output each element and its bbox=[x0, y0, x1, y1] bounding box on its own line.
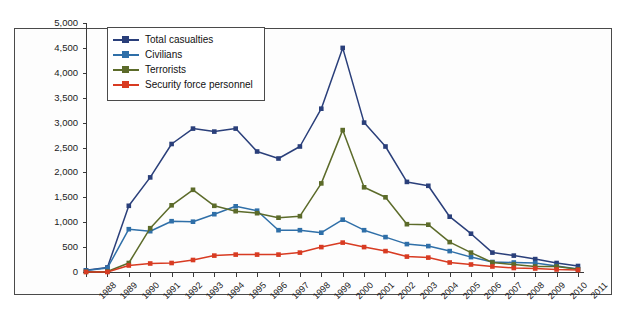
data-point-marker bbox=[127, 263, 132, 268]
data-point-marker bbox=[298, 214, 303, 219]
legend-marker-icon bbox=[113, 65, 139, 75]
data-point-marker bbox=[276, 156, 281, 161]
data-point-marker bbox=[554, 267, 559, 272]
data-point-marker bbox=[340, 128, 345, 133]
data-point-marker bbox=[447, 249, 452, 254]
data-point-marker bbox=[576, 268, 581, 273]
data-point-marker bbox=[447, 214, 452, 219]
series-line bbox=[86, 206, 578, 270]
legend-label: Total casualties bbox=[145, 34, 213, 45]
data-point-marker bbox=[191, 258, 196, 263]
data-point-marker bbox=[426, 244, 431, 249]
data-point-marker bbox=[426, 255, 431, 260]
data-point-marker bbox=[362, 228, 367, 233]
data-point-marker bbox=[298, 228, 303, 233]
chart-legend: Total casualtiesCiviliansTerroristsSecur… bbox=[107, 27, 265, 101]
data-point-marker bbox=[148, 226, 153, 231]
data-point-marker bbox=[447, 260, 452, 265]
data-point-marker bbox=[298, 144, 303, 149]
data-point-marker bbox=[212, 253, 217, 258]
data-point-marker bbox=[340, 46, 345, 51]
data-point-marker bbox=[233, 126, 238, 131]
data-point-marker bbox=[169, 219, 174, 224]
data-point-marker bbox=[255, 211, 260, 216]
data-point-marker bbox=[340, 217, 345, 222]
data-point-marker bbox=[340, 240, 345, 245]
series-line bbox=[86, 130, 578, 272]
data-point-marker bbox=[405, 180, 410, 185]
data-point-marker bbox=[191, 188, 196, 193]
data-point-marker bbox=[276, 228, 281, 233]
series-civilians bbox=[84, 204, 581, 273]
data-point-marker bbox=[233, 209, 238, 214]
data-point-marker bbox=[169, 261, 174, 266]
data-point-marker bbox=[383, 249, 388, 254]
data-point-marker bbox=[490, 260, 495, 265]
legend-label: Civilians bbox=[145, 49, 182, 60]
data-point-marker bbox=[405, 254, 410, 259]
data-point-marker bbox=[148, 175, 153, 180]
legend-marker-icon bbox=[113, 50, 139, 60]
data-point-marker bbox=[469, 231, 474, 236]
data-point-marker bbox=[319, 230, 324, 235]
legend-marker-icon bbox=[113, 35, 139, 45]
data-point-marker bbox=[255, 149, 260, 154]
data-point-marker bbox=[533, 266, 538, 271]
data-point-marker bbox=[469, 262, 474, 267]
data-point-marker bbox=[469, 250, 474, 255]
data-point-marker bbox=[212, 212, 217, 217]
data-point-marker bbox=[383, 195, 388, 200]
legend-item: Total casualties bbox=[113, 32, 258, 47]
data-point-marker bbox=[105, 270, 110, 275]
legend-item: Security force personnel bbox=[113, 77, 258, 92]
data-point-marker bbox=[276, 252, 281, 257]
data-point-marker bbox=[127, 204, 132, 209]
data-point-marker bbox=[233, 252, 238, 257]
data-point-marker bbox=[191, 219, 196, 224]
data-point-marker bbox=[405, 222, 410, 227]
data-point-marker bbox=[169, 142, 174, 147]
data-point-marker bbox=[362, 120, 367, 125]
data-point-marker bbox=[426, 184, 431, 189]
data-point-marker bbox=[362, 245, 367, 250]
data-point-marker bbox=[512, 253, 517, 258]
data-point-marker bbox=[255, 252, 260, 257]
data-point-marker bbox=[319, 181, 324, 186]
series-terrorists bbox=[84, 128, 581, 274]
data-point-marker bbox=[447, 240, 452, 245]
legend-label: Security force personnel bbox=[145, 79, 253, 90]
data-point-marker bbox=[127, 227, 132, 232]
data-point-marker bbox=[490, 264, 495, 269]
data-point-marker bbox=[319, 106, 324, 111]
series-line bbox=[86, 243, 578, 272]
plot-series-area bbox=[0, 0, 627, 316]
legend-marker-icon bbox=[113, 80, 139, 90]
casualties-line-chart: 05001,0001,5002,0002,5003,0003,5004,0004… bbox=[0, 0, 627, 316]
data-point-marker bbox=[148, 261, 153, 266]
data-point-marker bbox=[298, 250, 303, 255]
data-point-marker bbox=[362, 185, 367, 190]
data-point-marker bbox=[490, 250, 495, 255]
data-point-marker bbox=[191, 126, 196, 131]
legend-item: Civilians bbox=[113, 47, 258, 62]
data-point-marker bbox=[84, 270, 89, 275]
data-point-marker bbox=[319, 245, 324, 250]
series-security-force-personnel bbox=[84, 240, 581, 274]
data-point-marker bbox=[405, 242, 410, 247]
data-point-marker bbox=[276, 215, 281, 220]
data-point-marker bbox=[169, 203, 174, 208]
data-point-marker bbox=[383, 144, 388, 149]
data-point-marker bbox=[212, 204, 217, 209]
data-point-marker bbox=[512, 266, 517, 271]
data-point-marker bbox=[233, 204, 238, 209]
legend-item: Terrorists bbox=[113, 62, 258, 77]
data-point-marker bbox=[212, 129, 217, 134]
data-point-marker bbox=[469, 255, 474, 260]
data-point-marker bbox=[383, 235, 388, 240]
legend-label: Terrorists bbox=[145, 64, 186, 75]
data-point-marker bbox=[426, 222, 431, 227]
